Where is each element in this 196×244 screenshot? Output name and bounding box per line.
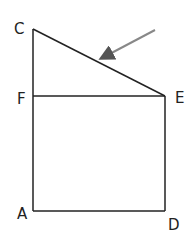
label-f: F xyxy=(17,90,26,108)
label-d: D xyxy=(168,216,180,234)
geometry-diagram: C F E A D xyxy=(0,0,196,244)
segment-ce xyxy=(33,29,165,96)
label-c: C xyxy=(14,20,24,38)
pointer-arrow-icon xyxy=(102,30,155,58)
label-e: E xyxy=(175,89,184,107)
label-a: A xyxy=(17,205,28,223)
